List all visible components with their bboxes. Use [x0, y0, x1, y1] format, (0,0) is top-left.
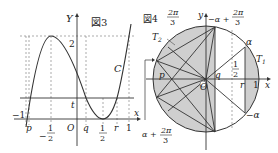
bottom-point-num: 2π: [160, 126, 172, 135]
fig4-y-label: y: [197, 10, 204, 20]
fig3-x-label: x: [134, 108, 139, 118]
p-pointer: [145, 60, 152, 120]
t2-label: T2: [152, 32, 162, 43]
bottom-point-den: 3: [163, 136, 168, 145]
fig3-guides: [20, 36, 135, 125]
top-point-den: 3: [235, 18, 240, 27]
neg-one-label: −1: [12, 110, 25, 120]
curve-c: [26, 24, 131, 127]
neg-half-num: 1: [48, 124, 53, 133]
fig3-axes: [14, 16, 137, 146]
bottom-point-label: α +: [142, 130, 157, 139]
fig4-half-num: 1: [233, 60, 238, 69]
curve-c-label: C: [114, 63, 122, 74]
top-left-den: 3: [170, 18, 175, 27]
alpha-label: α: [246, 37, 252, 47]
origin-label: O: [67, 123, 75, 133]
fig4-one-label: 1: [253, 80, 259, 90]
diagram-canvas: 図3 Y x 2 t C −1 p O q r 1 − 1 2 1 2: [0, 0, 278, 153]
p-label: p: [26, 123, 32, 133]
t-label: t: [71, 100, 75, 110]
fig4-q-label: q: [215, 70, 221, 80]
fig4-origin-label: O: [200, 82, 208, 92]
half-num: 1: [100, 124, 105, 133]
neg-half-den: 2: [48, 134, 53, 143]
y-axis-arrow-icon: [75, 13, 79, 17]
neg-alpha-label: −α: [246, 110, 260, 120]
t1-label: T1: [256, 54, 266, 65]
one-label: 1: [126, 123, 132, 133]
y-tick-2: 2: [69, 39, 75, 49]
fig4-x-label: x: [265, 80, 270, 90]
fig4-caption: 図4: [143, 14, 158, 24]
fig4-p-label: p: [159, 70, 165, 80]
half-den: 2: [100, 134, 105, 143]
fig3-caption: 図3: [91, 17, 107, 28]
fig4-r-label: r: [240, 80, 245, 90]
top-point-num: 2π: [232, 8, 244, 17]
r-label: r: [114, 123, 119, 133]
fig3-y-label: Y: [66, 13, 74, 24]
neg-half-sign: −: [39, 131, 47, 141]
q-label: q: [83, 123, 89, 133]
figure-4: 図4 2π 3 y −α + 2π 3 α T1 T2 p q 1 2 r 1 …: [142, 8, 271, 150]
top-left-num: 2π: [167, 8, 179, 17]
top-point-label: −α +: [208, 15, 229, 24]
p-pointer-arrow-icon: [152, 58, 155, 62]
fig4-half-den: 2: [233, 70, 238, 79]
figure-3: 図3 Y x 2 t C −1 p O q r 1 − 1 2 1 2: [12, 13, 141, 146]
